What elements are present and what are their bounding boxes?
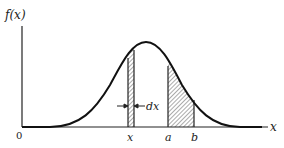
dx-label: dx — [146, 100, 160, 113]
x-axis-label: x — [270, 120, 277, 134]
density-curve — [22, 42, 262, 127]
marker-x-label: x — [127, 131, 134, 144]
marker-a-label: a — [165, 131, 172, 144]
ab-region — [168, 30, 194, 127]
marker-b-label: b — [191, 131, 198, 144]
density-diagram: f(x) x 0 x a b dx — [0, 0, 284, 148]
y-axis-label: f(x) — [4, 8, 26, 22]
origin-label: 0 — [16, 130, 22, 141]
dx-strip — [128, 30, 134, 127]
